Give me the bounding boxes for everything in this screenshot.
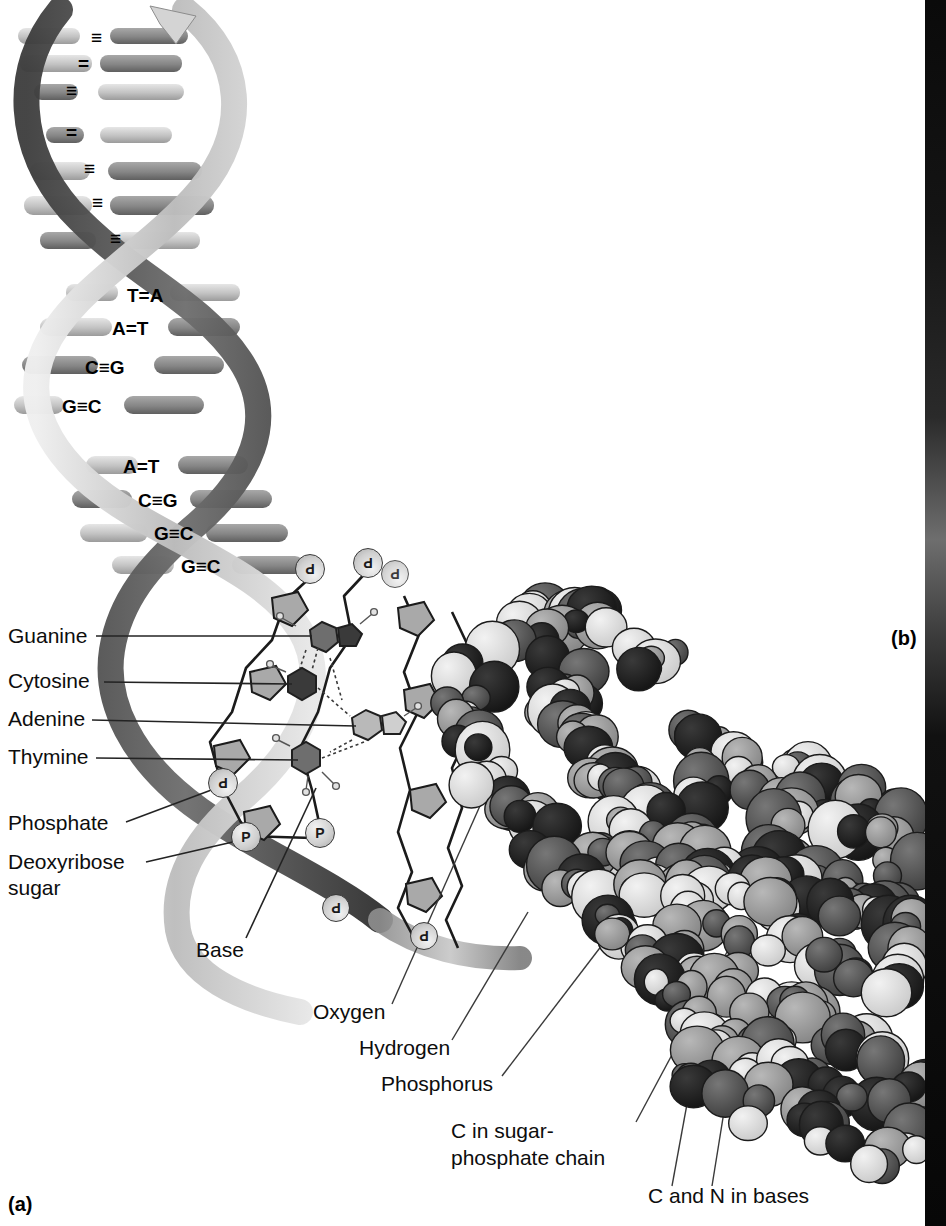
label-phosphate: Phosphate [8, 811, 108, 835]
label-adenine: Adenine [8, 707, 85, 731]
panel-b-space-filling-model [0, 0, 946, 1226]
label-deoxyribose: Deoxyribose [8, 850, 125, 874]
figure-canvas: ≡ = ≡ = ≡ ≡ ≡ T=A A=T C≡G G≡C A=T C≡G G≡… [0, 0, 946, 1226]
label-cytosine: Cytosine [8, 669, 90, 693]
label-thymine: Thymine [8, 745, 89, 769]
label-hydrogen: Hydrogen [359, 1036, 450, 1060]
label-c-in-sugar-line1: C in sugar- [451, 1119, 554, 1143]
label-base: Base [196, 938, 244, 962]
label-phosphorus: Phosphorus [381, 1072, 493, 1096]
label-sugar: sugar [8, 876, 61, 900]
panel-tag-b: (b) [891, 627, 917, 650]
label-c-and-n-in-bases: C and N in bases [648, 1184, 809, 1208]
label-c-in-sugar-line2: phosphate chain [451, 1146, 605, 1170]
panel-tag-a: (a) [8, 1193, 32, 1216]
page-edge-strip [925, 0, 946, 1226]
label-oxygen: Oxygen [313, 1000, 385, 1024]
label-guanine: Guanine [8, 624, 87, 648]
